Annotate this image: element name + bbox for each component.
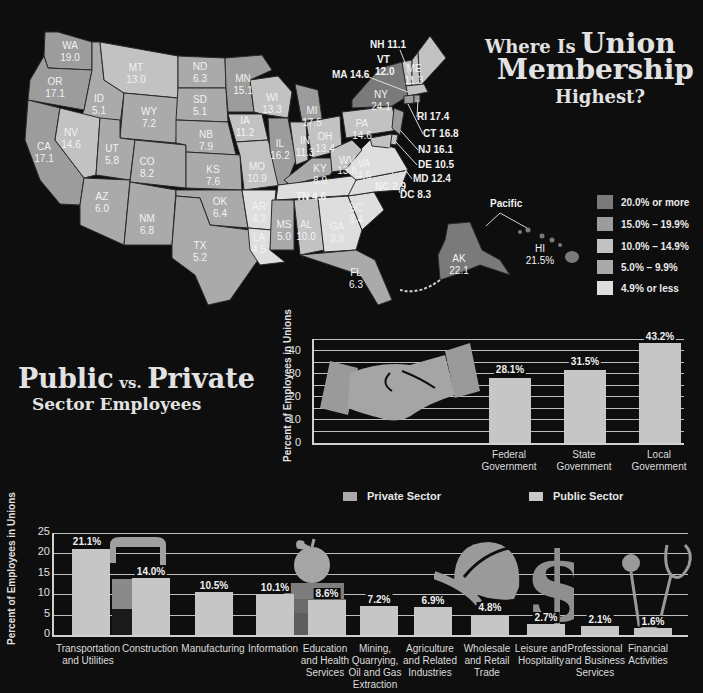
svg-text:HI: HI (535, 243, 545, 254)
svg-text:ND: ND (193, 61, 207, 72)
svg-text:11.3: 11.3 (296, 147, 315, 158)
svg-text:CT 16.8: CT 16.8 (423, 128, 459, 139)
title-vs: vs. (119, 374, 141, 392)
private-chart-ylabel: Percent of Employees in Unions (6, 492, 17, 645)
bar-leisure (527, 624, 565, 635)
state-RI (414, 95, 420, 103)
svg-text:5.1: 5.1 (92, 105, 106, 116)
svg-text:4.6: 4.6 (357, 170, 371, 181)
svg-text:17.1: 17.1 (34, 153, 54, 164)
legend-swatch (343, 492, 357, 501)
svg-text:MT: MT (129, 62, 143, 73)
svg-text:IL: IL (276, 138, 285, 149)
bar-local (639, 343, 681, 443)
svg-text:6.3: 6.3 (349, 279, 363, 290)
svg-text:7.9: 7.9 (199, 141, 213, 152)
svg-text:MO: MO (249, 161, 265, 172)
svg-text:10.0: 10.0 (296, 231, 316, 242)
cat-state: State Government (556, 449, 611, 473)
svg-text:3.9: 3.9 (330, 233, 344, 244)
svg-text:14.6: 14.6 (61, 139, 81, 150)
bar-label-education-health: 8.6% (314, 588, 341, 599)
svg-text:SC: SC (349, 202, 363, 213)
map-title: Where Is Union Membership Highest? (485, 30, 703, 106)
svg-text:5.1: 5.1 (193, 106, 207, 117)
legend-swatch (597, 239, 613, 253)
legend-swatch (597, 281, 613, 295)
svg-text:6.0: 6.0 (95, 203, 109, 214)
svg-text:Pacific: Pacific (490, 198, 523, 209)
cat-local: Local Government (631, 449, 686, 473)
legend-item-5-9: 5.0% – 9.9% (597, 259, 678, 275)
svg-text:WA: WA (62, 40, 78, 51)
svg-text:MN: MN (235, 73, 251, 84)
svg-text:NY: NY (374, 89, 388, 100)
svg-text:WY: WY (141, 106, 157, 117)
svg-text:6.3: 6.3 (193, 73, 207, 84)
legend-public-sector: Public Sector (529, 490, 623, 502)
state-WA (44, 32, 92, 70)
svg-text:OH: OH (318, 131, 333, 142)
svg-text:5.2: 5.2 (193, 252, 207, 263)
map-title-membership: Membership (497, 56, 703, 84)
cat-federal: Federal Government (481, 449, 536, 473)
bar-label-transportation: 21.1% (71, 536, 103, 547)
title-sector-employees: Sector Employees (32, 396, 255, 413)
svg-text:3.4: 3.4 (349, 214, 363, 225)
svg-text:OK: OK (213, 196, 228, 207)
svg-text:17.1: 17.1 (45, 88, 65, 99)
svg-text:AL: AL (300, 219, 313, 230)
bar-state (564, 370, 606, 443)
svg-text:6.4: 6.4 (213, 208, 227, 219)
svg-text:TX: TX (194, 240, 207, 251)
svg-text:13.0: 13.0 (126, 74, 146, 85)
svg-text:11.3: 11.3 (405, 75, 424, 86)
state-MD (370, 134, 392, 148)
svg-text:7.6: 7.6 (206, 176, 220, 187)
svg-text:24.1: 24.1 (371, 101, 391, 112)
svg-text:FL: FL (350, 267, 362, 278)
svg-text:GA: GA (330, 221, 345, 232)
svg-text:CA: CA (37, 141, 51, 152)
svg-text:OR: OR (48, 76, 63, 87)
svg-text:KS: KS (206, 164, 220, 175)
svg-text:15.1: 15.1 (233, 85, 253, 96)
legend-swatch (597, 217, 613, 231)
map-title-highest: Highest? (555, 88, 703, 106)
svg-text:5.0: 5.0 (277, 231, 291, 242)
svg-text:LA: LA (253, 232, 266, 243)
legend-private-sector: Private Sector (343, 490, 441, 502)
svg-text:7.2: 7.2 (142, 118, 156, 129)
legend-item-20-plus: 20.0% or more (597, 194, 689, 210)
state-CO (130, 140, 186, 188)
svg-text:14.6: 14.6 (352, 130, 372, 141)
legend-swatch (597, 260, 613, 274)
bar-label-information: 10.1% (259, 582, 291, 593)
svg-text:DE 10.5: DE 10.5 (418, 159, 455, 170)
svg-text:AK: AK (452, 253, 466, 264)
bar-information (256, 594, 294, 635)
svg-text:VT: VT (377, 54, 390, 65)
legend-item-15-19: 15.0% – 19.9% (597, 216, 689, 232)
svg-text:ID: ID (94, 93, 104, 104)
svg-text:8.9: 8.9 (313, 175, 327, 186)
state-FL (300, 250, 392, 305)
bar-label-leisure: 2.7% (533, 612, 560, 623)
bar-label-state: 31.5% (569, 356, 601, 367)
title-private: Private (147, 363, 255, 394)
bar-mining (360, 606, 398, 635)
bar-label-wholesale-retail: 4.8% (477, 602, 504, 613)
svg-text:13.8: 13.8 (337, 165, 357, 176)
bar-professional (581, 626, 619, 635)
svg-text:19.0: 19.0 (60, 52, 80, 63)
svg-text:21.5%: 21.5% (526, 255, 554, 266)
svg-text:CO: CO (140, 156, 155, 167)
svg-text:TN 4.6: TN 4.6 (296, 191, 326, 202)
bar-transportation (72, 549, 110, 635)
bar-education-health (308, 600, 346, 635)
legend-swatch (529, 492, 543, 501)
bar-label-financial: 1.6% (640, 616, 667, 627)
legend-item-10-14: 10.0% – 14.9% (597, 238, 689, 254)
svg-text:13.4: 13.4 (315, 143, 335, 154)
svg-text:VA: VA (358, 158, 371, 169)
